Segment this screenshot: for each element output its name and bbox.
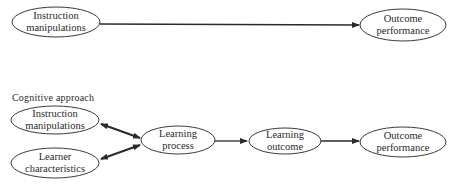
node-learning-outcome: Learning outcome — [249, 128, 321, 154]
node-label-line1: Instruction — [32, 108, 78, 119]
node-label-line2: characteristics — [25, 163, 85, 174]
node-label-line2: performance — [376, 25, 429, 36]
node-label-line1: Instruction — [33, 10, 79, 21]
node-learning-process: Learning process — [141, 126, 215, 154]
cognitive-model: Cognitive approach Instruction manipulat… — [11, 92, 446, 178]
node-label-line2: manipulations — [25, 120, 85, 131]
node-top-outcome-performance: Outcome performance — [360, 9, 446, 41]
edge-instruction-to-outcome — [100, 24, 359, 25]
top-model: Instruction manipulations Outcome perfor… — [12, 7, 446, 41]
node-label-line1: Outcome — [384, 130, 423, 141]
node-top-instruction-manipulations: Instruction manipulations — [12, 7, 100, 37]
node-label-line1: Learner — [39, 151, 72, 162]
node-instruction-manipulations: Instruction manipulations — [11, 106, 99, 134]
node-label-line1: Learning — [159, 128, 198, 139]
node-label-line2: performance — [376, 142, 429, 153]
node-label-line1: Outcome — [384, 13, 423, 24]
node-label-line1: Learning — [266, 129, 305, 140]
edge-learner-learning-process — [101, 145, 140, 159]
node-label-line2: outcome — [267, 141, 303, 152]
edge-instruction-learning-process — [101, 124, 140, 138]
learning-models-diagram: Instruction manipulations Outcome perfor… — [0, 0, 456, 186]
node-outcome-performance: Outcome performance — [360, 127, 446, 157]
node-label-line2: manipulations — [26, 22, 86, 33]
node-learner-characteristics: Learner characteristics — [11, 148, 99, 178]
cognitive-approach-caption: Cognitive approach — [12, 92, 94, 103]
node-label-line2: process — [162, 140, 194, 151]
